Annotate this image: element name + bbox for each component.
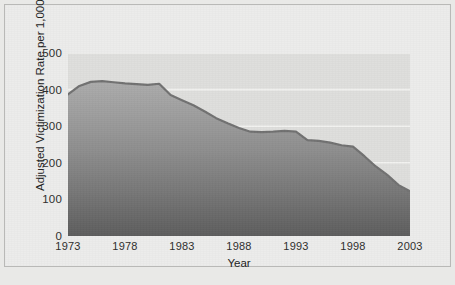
x-tick-label: 1988	[226, 240, 251, 252]
x-tick-label: 1993	[283, 240, 308, 252]
y-tick-label: 500	[42, 47, 62, 59]
x-tick-label: 1973	[55, 240, 80, 252]
y-tick-label: 400	[42, 84, 62, 96]
x-tick-label: 2003	[397, 240, 422, 252]
x-tick-label: 1983	[169, 240, 194, 252]
chart-figure: Adjusted Victimization Rate per 1,000 Ho…	[0, 0, 455, 285]
x-tick-label: 1978	[112, 240, 137, 252]
area-chart-svg	[68, 53, 410, 236]
y-tick-label: 300	[42, 120, 62, 132]
y-tick-label: 200	[42, 157, 62, 169]
x-axis-title: Year	[68, 257, 410, 269]
plot-area: 0100200300400500 19731978198319881993199…	[68, 53, 410, 236]
y-tick-label: 100	[42, 193, 62, 205]
area-fill	[68, 81, 410, 236]
x-tick-label: 1998	[340, 240, 365, 252]
chart-paper: Adjusted Victimization Rate per 1,000 Ho…	[4, 4, 451, 267]
